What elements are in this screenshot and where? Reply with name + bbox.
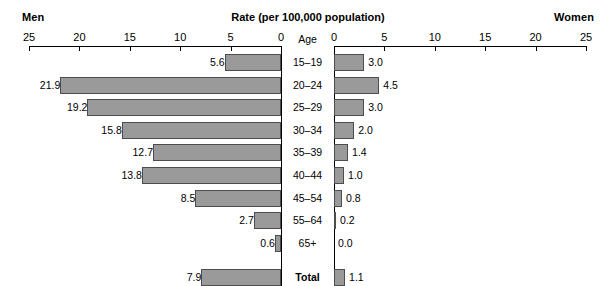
men-value-label: 19.2 <box>0 99 91 116</box>
women-bar <box>334 190 342 207</box>
women-bar-container <box>334 144 586 161</box>
men-bar <box>195 190 281 207</box>
women-bar-container <box>334 235 586 252</box>
chart-row: 15.830–342.0 <box>0 122 616 139</box>
men-bar <box>254 212 281 229</box>
age-group-label: 45–54 <box>281 190 334 207</box>
men-value-label: 15.8 <box>0 122 126 139</box>
chart-row: 8.545–540.8 <box>0 190 616 207</box>
men-value-label: 8.5 <box>0 190 199 207</box>
women-bar-container <box>334 167 586 184</box>
men-bar <box>225 54 281 71</box>
age-group-label: Total <box>281 269 334 286</box>
men-bar <box>153 144 281 161</box>
age-group-label: 55–64 <box>281 212 334 229</box>
men-bar <box>87 99 281 116</box>
chart-row-total: 7.9Total1.1 <box>0 269 616 286</box>
women-bar-container <box>334 190 586 207</box>
age-group-label: 65+ <box>281 235 334 252</box>
men-value-label: 21.9 <box>0 77 64 94</box>
women-value-label: 3.0 <box>364 54 383 71</box>
age-group-label: 20–24 <box>281 77 334 94</box>
women-bar-container <box>334 77 586 94</box>
women-value-label: 0.8 <box>342 190 361 207</box>
chart-row: 19.225–293.0 <box>0 99 616 116</box>
men-bar <box>142 167 281 184</box>
men-bar <box>60 77 281 94</box>
chart-row: 0.665+0.0 <box>0 235 616 252</box>
women-value-label: 0.0 <box>334 235 353 252</box>
women-value-label: 3.0 <box>364 99 383 116</box>
men-value-label: 12.7 <box>0 144 157 161</box>
women-bar <box>334 122 354 139</box>
women-bar <box>334 54 364 71</box>
women-bar-container <box>334 269 586 286</box>
women-bar <box>334 77 379 94</box>
age-group-label: 25–29 <box>281 99 334 116</box>
chart-row: 2.755–640.2 <box>0 212 616 229</box>
chart-row: 5.615–193.0 <box>0 54 616 71</box>
women-value-label: 1.4 <box>348 144 367 161</box>
men-bar <box>201 269 281 286</box>
men-value-label: 2.7 <box>0 212 258 229</box>
men-bar <box>122 122 281 139</box>
women-bar <box>334 269 345 286</box>
men-bar-container <box>29 77 281 94</box>
chart-row: 12.735–391.4 <box>0 144 616 161</box>
women-value-label: 2.0 <box>354 122 373 139</box>
chart-row: 21.920–244.5 <box>0 77 616 94</box>
age-group-label: 35–39 <box>281 144 334 161</box>
women-bar <box>334 144 348 161</box>
women-value-label: 1.0 <box>344 167 363 184</box>
men-value-label: 13.8 <box>0 167 146 184</box>
chart-row: 13.840–441.0 <box>0 167 616 184</box>
age-group-label: 15–19 <box>281 54 334 71</box>
men-value-label: 5.6 <box>0 54 229 71</box>
men-value-label: 0.6 <box>0 235 279 252</box>
age-group-label: 30–34 <box>281 122 334 139</box>
women-bar <box>334 99 364 116</box>
women-value-label: 1.1 <box>345 269 364 286</box>
women-bar-container <box>334 212 586 229</box>
women-bar <box>334 167 344 184</box>
age-group-label: 40–44 <box>281 167 334 184</box>
women-value-label: 0.2 <box>336 212 355 229</box>
men-value-label: 7.9 <box>0 269 205 286</box>
women-value-label: 4.5 <box>379 77 398 94</box>
